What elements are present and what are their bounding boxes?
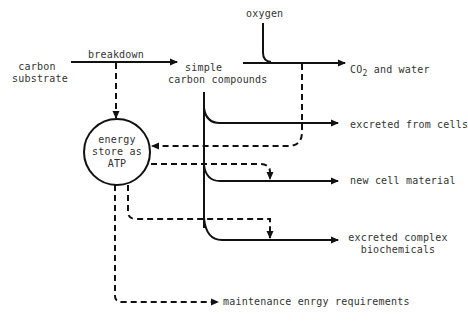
excreted-complex-line2: biochemicals bbox=[348, 244, 448, 256]
excreted-complex-label: excreted complex biochemicals bbox=[348, 232, 448, 256]
maintenance-label: maintenance enrgy requirements bbox=[223, 296, 410, 308]
carbon-substrate-label: carbon substrate bbox=[12, 61, 62, 85]
energy-store-line3: ATP bbox=[87, 158, 147, 170]
simple-carbon-compounds-label: simple carbon compounds bbox=[168, 62, 268, 86]
energy-store-line1: energy bbox=[87, 134, 147, 146]
breakdown-label: breakdown bbox=[88, 49, 144, 61]
oxygen-input-line bbox=[263, 23, 271, 62]
co2-water-label: CO2 and water bbox=[350, 64, 430, 76]
oxygen-label: oxygen bbox=[246, 8, 283, 20]
new-cell-material-label: new cell material bbox=[350, 175, 456, 187]
energy-to-maintenance-dashed-arrow bbox=[115, 185, 218, 302]
excreted-complex-line1: excreted complex bbox=[348, 232, 448, 244]
energy-store-label: energy store as ATP bbox=[87, 134, 147, 170]
energy-to-complex-dashed-arrow bbox=[128, 185, 270, 238]
branch-excreted-from-cells-arrow bbox=[204, 108, 338, 123]
excreted-from-cells-label: excreted from cells bbox=[350, 119, 468, 131]
simple-carbon-line1: simple bbox=[168, 62, 268, 74]
simple-carbon-line2: carbon compounds bbox=[168, 74, 268, 86]
energy-to-new-cell-dashed-arrow bbox=[151, 164, 270, 179]
energy-store-line2: store as bbox=[87, 146, 147, 158]
carbon-substrate-line2: substrate bbox=[12, 73, 62, 85]
co2-prefix: CO bbox=[350, 64, 362, 75]
carbon-substrate-line1: carbon bbox=[12, 61, 62, 73]
co2-suffix: and water bbox=[367, 64, 429, 75]
